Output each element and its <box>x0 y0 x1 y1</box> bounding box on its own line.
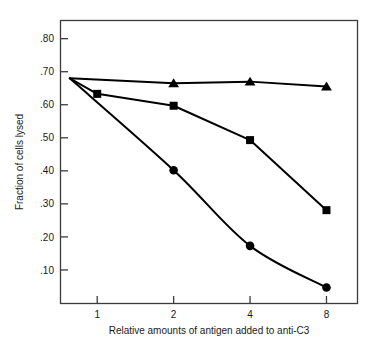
y-axis-tick-labels: .10.20.30.40.50.60.70.80 <box>40 33 54 275</box>
y-tick-label: .10 <box>40 265 54 276</box>
chart-page: .10.20.30.40.50.60.70.80 1248 Relative a… <box>0 0 378 353</box>
x-tick-label: 2 <box>171 309 177 320</box>
x-tick-label: 4 <box>247 309 253 320</box>
series-markers <box>93 77 332 292</box>
y-tick-label: .60 <box>40 99 54 110</box>
series-line-triangle-series <box>70 78 327 86</box>
data-point-square <box>246 136 254 144</box>
x-tick-label: 1 <box>94 309 100 320</box>
series-line-circle-series <box>70 78 327 287</box>
y-axis-title: Fraction of cells lysed <box>14 114 25 210</box>
series-line-square-series <box>70 78 327 210</box>
plot-frame <box>61 21 358 304</box>
data-point-circle <box>322 283 331 292</box>
y-tick-label: .40 <box>40 165 54 176</box>
y-tick-label: .30 <box>40 198 54 209</box>
x-axis-ticks <box>97 296 326 303</box>
data-point-square <box>93 90 101 98</box>
y-tick-label: .20 <box>40 232 54 243</box>
y-tick-label: .70 <box>40 66 54 77</box>
y-tick-label: .50 <box>40 132 54 143</box>
line-chart: .10.20.30.40.50.60.70.80 1248 Relative a… <box>0 0 378 353</box>
data-point-circle <box>169 166 178 175</box>
series-lines <box>70 78 327 287</box>
y-axis-ticks <box>61 39 68 270</box>
x-axis-tick-labels: 1248 <box>94 309 329 320</box>
data-point-circle <box>246 242 255 251</box>
x-axis-title: Relative amounts of antigen added to ant… <box>109 325 310 336</box>
y-tick-label: .80 <box>40 33 54 44</box>
data-point-square <box>170 102 178 110</box>
x-tick-label: 8 <box>324 309 330 320</box>
data-point-square <box>322 206 330 214</box>
